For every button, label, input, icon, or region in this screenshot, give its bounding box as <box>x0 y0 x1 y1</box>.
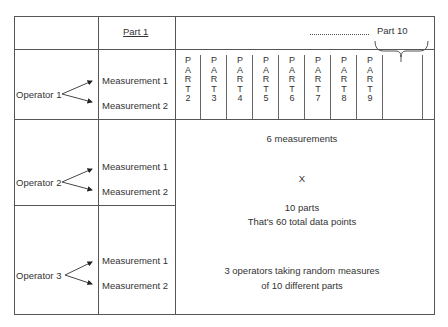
operator-3-measurement-1: Measurement 1 <box>102 255 168 266</box>
header-part-last: Part 10 <box>377 25 408 36</box>
operator-1-measurement-2: Measurement 2 <box>102 100 168 111</box>
part-column-8: PART8 <box>331 56 357 104</box>
note-total-points: That's 60 total data points <box>248 216 357 227</box>
header-part-first: Part 1 <box>123 26 148 37</box>
note-ten-parts: 10 parts <box>285 202 319 213</box>
operator-1-measurement-1: Measurement 1 <box>102 75 168 86</box>
part-column-2: PART2 <box>175 56 201 104</box>
grid-lines <box>0 0 448 327</box>
note-different-parts: of 10 different parts <box>261 280 343 291</box>
part-column-6: PART6 <box>279 56 305 104</box>
gage-rr-diagram: Part 1 Part 10 PART2 PART3 PART4 PART5 P… <box>0 0 448 327</box>
operator-2-label: Operator 2 <box>16 177 61 188</box>
operator-2-measurement-1: Measurement 1 <box>102 161 168 172</box>
part-column-9: PART9 <box>357 56 383 104</box>
operator-1-label: Operator 1 <box>16 89 61 100</box>
note-six-measurements: 6 measurements <box>267 133 338 144</box>
part-column-5: PART5 <box>253 56 279 104</box>
part-column-7: PART7 <box>305 56 331 104</box>
operator-2-measurement-2: Measurement 2 <box>102 186 168 197</box>
note-operators: 3 operators taking random measures <box>224 265 379 276</box>
part-column-3: PART3 <box>201 56 227 104</box>
note-multiply: X <box>299 173 305 184</box>
operator-3-label: Operator 3 <box>16 270 61 281</box>
operator-3-measurement-2: Measurement 2 <box>102 280 168 291</box>
part-column-4: PART4 <box>227 56 253 104</box>
